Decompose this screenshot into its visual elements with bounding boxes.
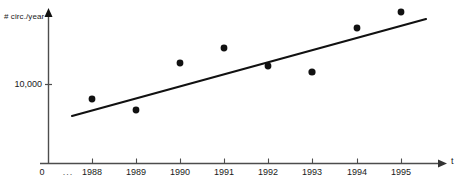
- x-tick-marks: [93, 159, 402, 164]
- x-tick-label-1993: 1993: [302, 167, 322, 177]
- x-tick-label-1991: 1991: [214, 167, 234, 177]
- chart-figure: # circ./year t 10,000 0 ... 1988 1989 19…: [0, 0, 463, 185]
- data-point-1989: [133, 107, 140, 114]
- trend-line: [72, 19, 426, 116]
- y-axis: [45, 8, 53, 164]
- x-tick-label-origin: 0: [39, 167, 44, 177]
- x-tick-label-break: ...: [63, 167, 74, 177]
- x-tick-label-1989: 1989: [126, 167, 146, 177]
- x-axis-label: t: [451, 156, 454, 166]
- chart-plot-area: [0, 0, 463, 185]
- y-axis-label: # circ./year: [4, 12, 44, 21]
- y-tick-label-10000: 10,000: [4, 79, 42, 89]
- x-axis-arrow-icon: [438, 160, 447, 168]
- x-tick-label-1988: 1988: [82, 167, 102, 177]
- data-point-1994: [354, 25, 361, 32]
- data-point-1995: [398, 9, 405, 16]
- data-point-1990: [177, 60, 184, 67]
- x-tick-label-1995: 1995: [391, 167, 411, 177]
- x-tick-label-1992: 1992: [258, 167, 278, 177]
- data-point-1991: [221, 45, 228, 52]
- data-point-1992: [265, 63, 272, 70]
- data-point-1988: [89, 96, 96, 103]
- data-point-1993: [308, 68, 315, 75]
- x-tick-label-1994: 1994: [347, 167, 367, 177]
- y-axis-arrow-icon: [45, 8, 53, 17]
- x-tick-label-1990: 1990: [170, 167, 190, 177]
